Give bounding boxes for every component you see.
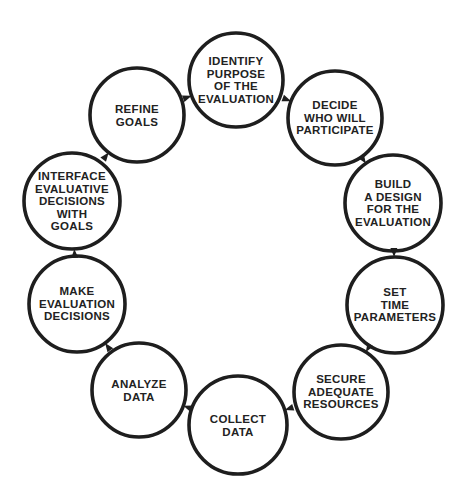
- node-label-line: REFINE: [91, 103, 183, 116]
- node-label-line: DATA: [93, 390, 185, 403]
- node-label-line: COLLECT: [192, 413, 284, 426]
- node-label-line: TIME: [349, 299, 441, 312]
- node-label-line: EVALUATION: [190, 93, 282, 106]
- node-label-line: EVALUATIVE: [26, 182, 118, 195]
- node-label-secure: SECUREADEQUATERESOURCES: [295, 373, 387, 411]
- node-label-line: PARTICIPATE: [289, 124, 381, 137]
- node-label-refine: REFINEGOALS: [91, 103, 183, 128]
- node-label-line: WITH: [26, 207, 118, 220]
- flow-arrows: [71, 95, 397, 412]
- node-label-line: MAKE: [31, 285, 123, 298]
- node-label-line: EVALUATION: [31, 298, 123, 311]
- arrow-icon: [100, 153, 108, 162]
- arrow-icon: [285, 404, 295, 411]
- node-label-line: EVALUATION: [347, 216, 439, 229]
- node-label-make: MAKEEVALUATIONDECISIONS: [31, 285, 123, 323]
- node-label-line: A DESIGN: [347, 191, 439, 204]
- node-label-line: SECURE: [295, 373, 387, 386]
- node-label-line: WHO WILL: [289, 112, 381, 125]
- node-label-line: DECISIONS: [31, 310, 123, 323]
- node-label-line: DECIDE: [289, 99, 381, 112]
- node-label-line: GOALS: [91, 115, 183, 128]
- node-label-line: DECISIONS: [26, 195, 118, 208]
- node-label-set-time: SETTIMEPARAMETERS: [349, 286, 441, 324]
- node-label-interface: INTERFACEEVALUATIVEDECISIONSWITHGOALS: [26, 170, 118, 233]
- node-label-line: RESOURCES: [295, 398, 387, 411]
- node-label-identify: IDENTIFYPURPOSEOF THEEVALUATION: [190, 55, 282, 105]
- node-label-line: FOR THE: [347, 203, 439, 216]
- node-label-line: PARAMETERS: [349, 311, 441, 324]
- node-label-line: ANALYZE: [93, 378, 185, 391]
- node-label-collect: COLLECTDATA: [192, 413, 284, 438]
- node-label-decide: DECIDEWHO WILLPARTICIPATE: [289, 99, 381, 137]
- node-label-line: INTERFACE: [26, 170, 118, 183]
- node-label-build: BUILDA DESIGNFOR THEEVALUATION: [347, 178, 439, 228]
- node-label-line: IDENTIFY: [190, 55, 282, 68]
- node-label-line: GOALS: [26, 220, 118, 233]
- node-label-analyze: ANALYZEDATA: [93, 378, 185, 403]
- node-label-line: OF THE: [190, 80, 282, 93]
- node-label-line: SET: [349, 286, 441, 299]
- node-label-line: BUILD: [347, 178, 439, 191]
- node-label-line: DATA: [192, 425, 284, 438]
- node-label-line: ADEQUATE: [295, 386, 387, 399]
- node-label-line: PURPOSE: [190, 68, 282, 81]
